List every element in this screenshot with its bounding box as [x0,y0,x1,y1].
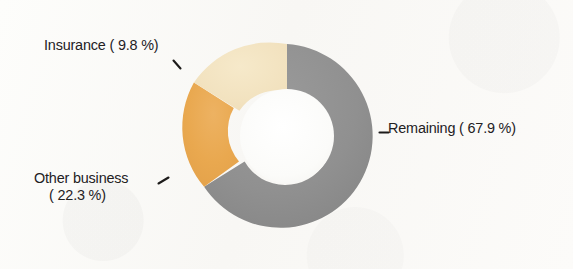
slice-label-remaining: Remaining ( 67.9 %) [388,119,516,136]
slice-label-other-business-name: Other business [34,169,128,186]
slice-label-insurance: Insurance ( 9.8 %) [44,36,158,53]
leader-line-insurance [174,61,181,69]
donut-chart-figure: Insurance ( 9.8 %) Remaining ( 67.9 %) O… [0,0,573,269]
leader-line-other-business [159,178,169,184]
slice-label-other-business: Other business ( 22.3 %) [34,169,128,203]
donut-hole [240,89,334,183]
slice-label-other-business-percent: ( 22.3 %) [34,186,128,203]
